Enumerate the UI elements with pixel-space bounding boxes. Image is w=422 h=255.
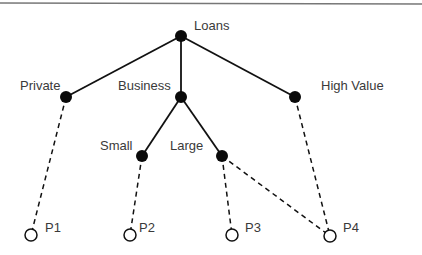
node-private-filled-circle-icon xyxy=(60,91,72,103)
node-label-p2: P2 xyxy=(139,220,155,235)
node-label-large: Large xyxy=(170,138,203,153)
node-loans-filled-circle-icon xyxy=(175,30,187,42)
node-small-filled-circle-icon xyxy=(136,150,148,162)
node-label-p3: P3 xyxy=(245,220,261,235)
edge-large-to-p4 xyxy=(222,156,330,236)
node-business-filled-circle-icon xyxy=(175,91,187,103)
node-p3-open-circle-icon xyxy=(226,229,238,241)
edge-loans-to-high-value xyxy=(181,36,295,97)
edge-high-value-to-p4 xyxy=(295,97,330,236)
node-p1-open-circle-icon xyxy=(25,229,37,241)
node-label-p1: P1 xyxy=(45,220,61,235)
node-p2-open-circle-icon xyxy=(124,229,136,241)
node-large-filled-circle-icon xyxy=(216,150,228,162)
node-p4-open-circle-icon xyxy=(324,230,336,242)
node-label-business: Business xyxy=(118,78,171,93)
loan-hierarchy-diagram: LoansPrivateBusinessHigh ValueSmallLarge… xyxy=(0,0,422,255)
top-rule-divider xyxy=(0,3,422,4)
edges-group xyxy=(31,36,330,236)
node-label-private: Private xyxy=(20,78,60,93)
edge-large-to-p3 xyxy=(222,156,232,235)
edge-private-to-p1 xyxy=(31,97,66,235)
node-label-p4: P4 xyxy=(343,220,359,235)
node-high-value-filled-circle-icon xyxy=(289,91,301,103)
node-label-high-value: High Value xyxy=(321,78,384,93)
node-label-small: Small xyxy=(100,138,133,153)
node-label-loans: Loans xyxy=(194,18,230,33)
